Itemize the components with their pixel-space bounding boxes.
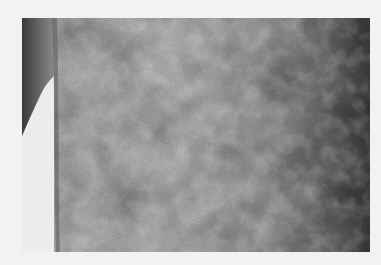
- skin-photograph: [22, 18, 370, 252]
- skin-texture-image: [22, 18, 370, 252]
